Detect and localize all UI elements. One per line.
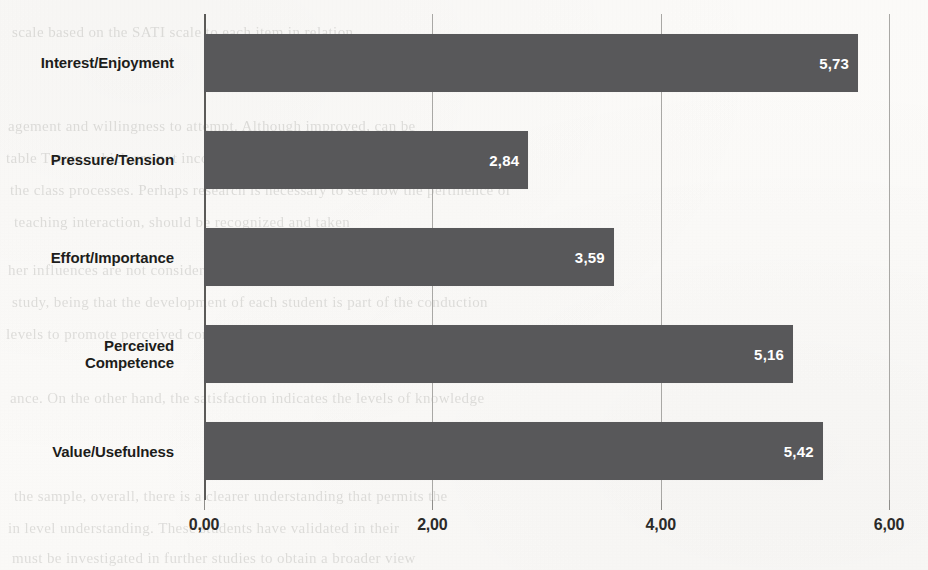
x-axis-tick bbox=[204, 500, 205, 510]
x-axis-tick-label: 6,00 bbox=[874, 516, 904, 534]
bar[interactable]: 5,73 bbox=[204, 34, 858, 92]
x-axis-tick-label: 0,00 bbox=[189, 516, 219, 534]
plot-area: 5,732,843,595,165,42 bbox=[204, 14, 889, 500]
x-axis-tick-label: 4,00 bbox=[645, 516, 675, 534]
bar-value-label: 3,59 bbox=[575, 249, 605, 266]
bar[interactable]: 5,42 bbox=[204, 422, 823, 480]
x-axis-tick bbox=[889, 500, 890, 510]
category-label: Pressure/Tension bbox=[0, 151, 190, 168]
horizontal-bar-chart: 5,732,843,595,165,42 Interest/EnjoymentP… bbox=[0, 0, 928, 570]
bar-value-label: 5,16 bbox=[754, 346, 784, 363]
category-label: Value/Usefulness bbox=[0, 443, 190, 460]
gridline bbox=[889, 14, 890, 500]
bar[interactable]: 5,16 bbox=[204, 325, 793, 383]
category-label: Perceived Competence bbox=[0, 337, 190, 371]
category-label: Effort/Importance bbox=[0, 249, 190, 266]
bar-value-label: 5,73 bbox=[819, 54, 849, 71]
bar-value-label: 5,42 bbox=[784, 443, 814, 460]
x-axis-tick bbox=[432, 500, 433, 510]
bar[interactable]: 3,59 bbox=[204, 228, 614, 286]
bar-value-label: 2,84 bbox=[489, 151, 519, 168]
x-axis-tick-label: 2,00 bbox=[417, 516, 447, 534]
x-axis-tick bbox=[661, 500, 662, 510]
category-label: Interest/Enjoyment bbox=[0, 54, 190, 71]
bar[interactable]: 2,84 bbox=[204, 131, 528, 189]
scanned-chart-page: scale based on the SATI scale to each it… bbox=[0, 0, 928, 570]
